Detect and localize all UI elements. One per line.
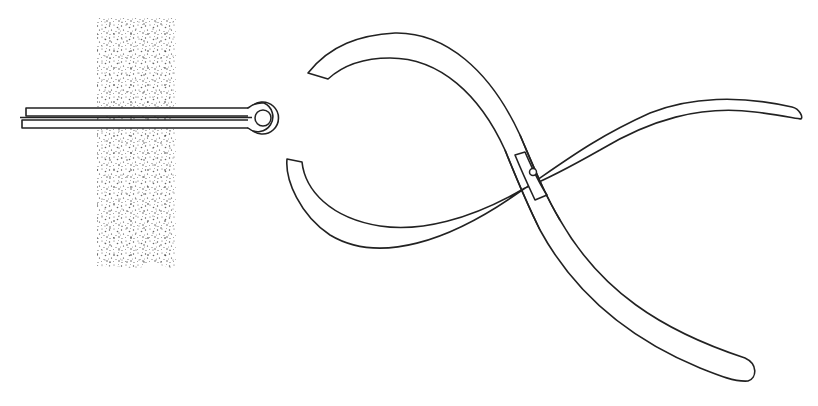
pliers: [287, 33, 802, 381]
material-block: [97, 18, 176, 270]
illustration: [0, 0, 818, 406]
cotter-pin-eye-hole: [255, 110, 271, 126]
pliers-pivot: [530, 169, 537, 176]
pliers-upper-jaw-handle: [308, 33, 755, 381]
